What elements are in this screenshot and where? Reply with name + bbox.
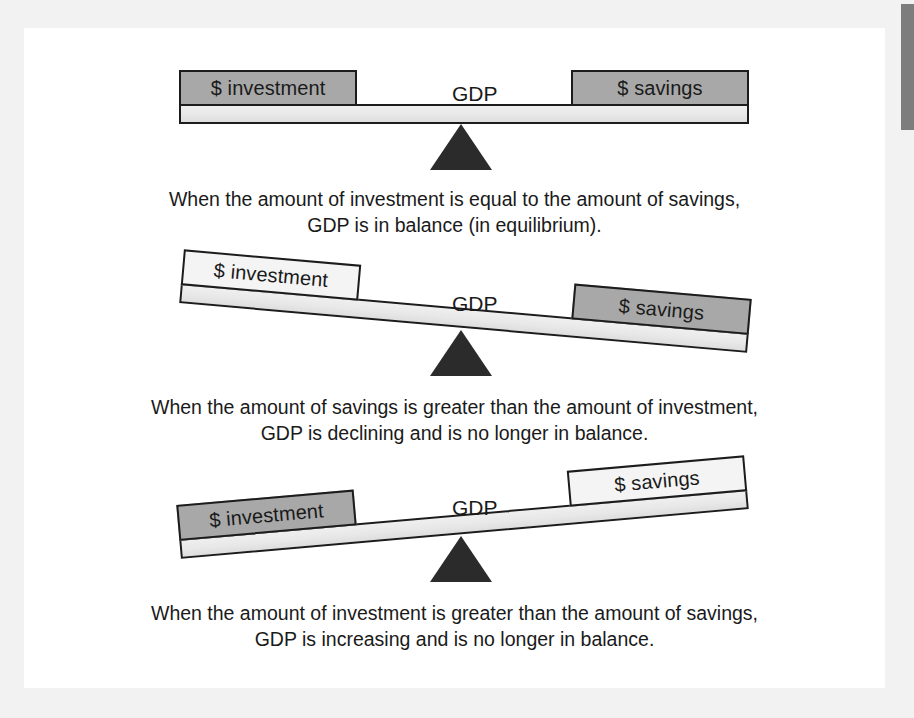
scale-block-increasing: $ investment $ savings GDP When the amou… <box>24 470 885 590</box>
fulcrum-triangle-icon <box>430 330 492 376</box>
savings-box: $ savings <box>571 70 749 106</box>
page-edge-strip <box>901 4 914 130</box>
scale-caption: When the amount of investment is greater… <box>24 600 885 652</box>
investment-box: $ investment <box>179 70 357 106</box>
gdp-label: GDP <box>452 292 498 316</box>
gdp-label: GDP <box>452 496 498 520</box>
caption-line-1: When the amount of savings is greater th… <box>24 394 885 420</box>
caption-line-2: GDP is in balance (in equilibrium). <box>24 212 885 238</box>
scale-stage: $ investment $ savings GDP <box>24 470 885 590</box>
scale-caption: When the amount of savings is greater th… <box>24 394 885 446</box>
figure-card: $ investment $ savings GDP When the amou… <box>24 28 885 688</box>
scale-caption: When the amount of investment is equal t… <box>24 186 885 238</box>
scale-stage: $ investment $ savings GDP <box>24 60 885 180</box>
balance-beam-assembly: $ investment $ savings <box>179 104 749 124</box>
scale-stage: $ investment $ savings GDP <box>24 264 885 384</box>
page-background: $ investment $ savings GDP When the amou… <box>0 0 914 718</box>
scale-block-equilibrium: $ investment $ savings GDP When the amou… <box>24 60 885 180</box>
scale-block-declining: $ investment $ savings GDP When the amou… <box>24 264 885 384</box>
fulcrum-triangle-icon <box>430 536 492 582</box>
gdp-label: GDP <box>452 82 498 106</box>
caption-line-2: GDP is declining and is no longer in bal… <box>24 420 885 446</box>
caption-line-1: When the amount of investment is equal t… <box>24 186 885 212</box>
balance-beam <box>179 104 749 124</box>
caption-line-1: When the amount of investment is greater… <box>24 600 885 626</box>
fulcrum-triangle-icon <box>430 124 492 170</box>
caption-line-2: GDP is increasing and is no longer in ba… <box>24 626 885 652</box>
